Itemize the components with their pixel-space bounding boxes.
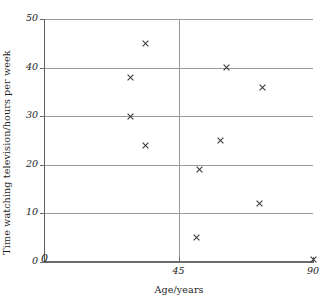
- y-axis-tick-label: 20: [14, 159, 38, 169]
- scatter-plot-figure: Time watching television/hours per week …: [0, 0, 331, 305]
- data-point: [193, 234, 200, 241]
- gridline-vertical: [179, 19, 180, 262]
- y-axis-tick: [40, 68, 45, 69]
- data-point: [310, 256, 317, 263]
- x-axis-tick-label: 0: [18, 254, 48, 264]
- y-axis-tick: [40, 213, 45, 214]
- data-point: [142, 142, 149, 149]
- data-point: [127, 74, 134, 81]
- y-axis-title-text: Time watching television/hours per week: [1, 50, 12, 254]
- x-axis-tick-label: 90: [298, 266, 328, 276]
- data-point: [142, 40, 149, 47]
- y-axis-tick-label: 30: [14, 110, 38, 120]
- data-point: [127, 113, 134, 120]
- y-axis-tick-label: 40: [14, 62, 38, 72]
- data-point: [259, 84, 266, 91]
- data-point: [217, 137, 224, 144]
- x-axis-tick-label: 45: [164, 266, 194, 276]
- y-axis-tick-label: 50: [14, 13, 38, 23]
- plot-area: [44, 19, 313, 262]
- data-point: [223, 64, 230, 71]
- y-axis-tick-label: 10: [14, 207, 38, 217]
- y-axis-tick: [40, 116, 45, 117]
- y-axis-tick: [40, 19, 45, 20]
- data-point: [256, 200, 263, 207]
- x-axis-tick: [179, 257, 180, 263]
- y-axis-tick: [40, 165, 45, 166]
- data-point: [196, 166, 203, 173]
- x-axis-title: Age/years: [44, 284, 314, 295]
- y-axis-title: Time watching television/hours per week: [0, 42, 14, 262]
